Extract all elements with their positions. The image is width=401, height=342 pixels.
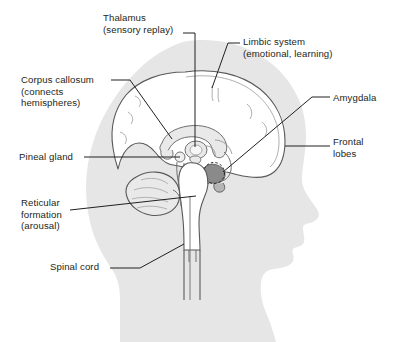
label-limbic-line-1: Limbic system: [243, 36, 333, 48]
label-reticular-line-1: Reticular: [21, 197, 62, 209]
label-corpus-line-2: (connects: [21, 86, 94, 98]
brain-diagram-svg: [0, 0, 401, 342]
label-pineal-line-1: Pineal gland: [19, 151, 73, 163]
label-corpus-line-3: hemispheres): [21, 97, 94, 109]
label-spinal-line-1: Spinal cord: [50, 261, 99, 273]
label-limbic-system: Limbic system (emotional, learning): [243, 36, 333, 59]
label-pineal-gland: Pineal gland: [19, 151, 73, 163]
label-frontal-line-1: Frontal: [333, 136, 364, 148]
label-thalamus-line-1: Thalamus: [103, 12, 173, 24]
label-limbic-line-2: (emotional, learning): [243, 48, 333, 60]
label-spinal-cord: Spinal cord: [50, 261, 99, 273]
label-amygdala: Amygdala: [333, 92, 376, 104]
label-reticular-line-2: formation: [21, 209, 62, 221]
label-frontal-lobes: Frontal lobes: [333, 136, 364, 159]
label-corpus-line-1: Corpus callosum: [21, 74, 94, 86]
label-thalamus: Thalamus (sensory replay): [103, 12, 173, 35]
label-reticular-formation: Reticular formation (arousal): [21, 197, 62, 232]
label-thalamus-line-2: (sensory replay): [103, 24, 173, 36]
label-amygdala-line-1: Amygdala: [333, 92, 376, 104]
label-reticular-line-3: (arousal): [21, 220, 62, 232]
label-frontal-line-2: lobes: [333, 148, 364, 160]
brain-diagram-figure: Thalamus (sensory replay) Limbic system …: [0, 0, 401, 342]
label-corpus-callosum: Corpus callosum (connects hemispheres): [21, 74, 94, 109]
